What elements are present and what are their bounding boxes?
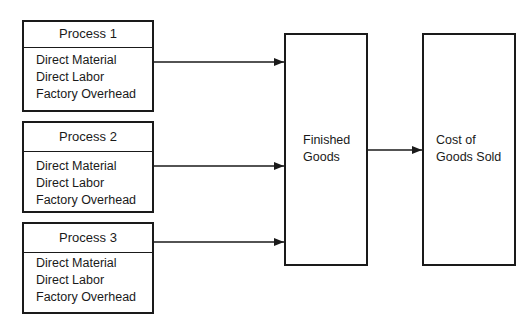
- cogs-label: Cost of Goods Sold: [436, 132, 501, 166]
- process-2-box: Process 2 Direct Material Direct Labor F…: [22, 121, 154, 213]
- process-2-direct-labor: Direct Labor: [36, 175, 136, 192]
- process-1-costs: Direct Material Direct Labor Factory Ove…: [36, 52, 136, 103]
- cogs-line2: Goods Sold: [436, 149, 501, 166]
- process-1-factory-overhead: Factory Overhead: [36, 86, 136, 103]
- process-3-costs: Direct Material Direct Labor Factory Ove…: [36, 255, 136, 306]
- process-1-direct-labor: Direct Labor: [36, 69, 136, 86]
- process-2-factory-overhead: Factory Overhead: [36, 192, 136, 209]
- finished-goods-label: Finished Goods: [303, 132, 350, 166]
- process-2-title: Process 2: [24, 123, 152, 152]
- process-3-title: Process 3: [24, 224, 152, 253]
- process-3-direct-material: Direct Material: [36, 255, 136, 272]
- cost-of-goods-sold-box: Cost of Goods Sold: [422, 33, 516, 266]
- finished-goods-box: Finished Goods: [284, 33, 368, 266]
- process-3-box: Process 3 Direct Material Direct Labor F…: [22, 222, 154, 314]
- process-1-title: Process 1: [24, 22, 152, 48]
- process-1-direct-material: Direct Material: [36, 52, 136, 69]
- process-2-direct-material: Direct Material: [36, 158, 136, 175]
- process-1-box: Process 1 Direct Material Direct Labor F…: [22, 20, 154, 112]
- finished-goods-line1: Finished: [303, 132, 350, 149]
- cogs-line1: Cost of: [436, 132, 501, 149]
- process-3-factory-overhead: Factory Overhead: [36, 289, 136, 306]
- finished-goods-line2: Goods: [303, 149, 350, 166]
- process-3-direct-labor: Direct Labor: [36, 272, 136, 289]
- process-2-costs: Direct Material Direct Labor Factory Ove…: [36, 158, 136, 209]
